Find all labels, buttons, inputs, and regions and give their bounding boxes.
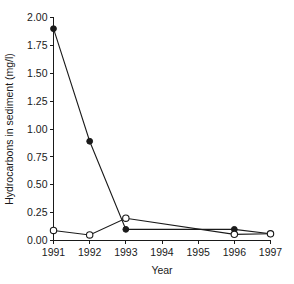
y-tick-label: 0.25 [27,206,48,218]
chart-container: 0.000.250.500.751.001.251.501.752.00 199… [0,0,294,284]
x-tick-label: 1997 [259,246,283,258]
data-series-group [50,26,273,238]
data-point-filled-circle-series-1992 [87,138,93,144]
data-point-filled-circle-series-1993 [123,226,129,232]
y-tick-label: 1.00 [27,123,48,135]
x-axis-ticks: 1991199219931994199519961997 [42,241,283,258]
y-axis-title: Hydrocarbons in sediment (mg/l) [3,53,15,205]
y-tick-label: 0.50 [27,178,48,190]
x-tick-label: 1994 [150,246,174,258]
x-tick-label: 1993 [114,246,138,258]
y-axis-ticks: 0.000.250.500.751.001.251.501.752.00 [27,11,53,246]
series-line-filled-circle-series [54,29,271,234]
data-point-open-circle-series-1993 [123,215,129,221]
y-tick-label: 0.75 [27,151,48,163]
y-tick-label: 1.50 [27,67,48,79]
x-tick-label: 1991 [42,246,66,258]
data-point-filled-circle-series-1991 [51,26,57,32]
data-point-open-circle-series-1997 [267,231,273,237]
data-point-open-circle-series-1992 [86,232,92,238]
x-tick-label: 1995 [186,246,210,258]
line-chart: 0.000.250.500.751.001.251.501.752.00 199… [0,0,294,284]
series-line-open-circle-series [54,218,271,235]
y-tick-label: 0.00 [27,234,48,246]
x-tick-label: 1996 [223,246,247,258]
y-tick-label: 1.25 [27,95,48,107]
data-point-open-circle-series-1996 [231,231,237,237]
y-tick-label: 1.75 [27,39,48,51]
y-tick-label: 2.00 [27,11,48,23]
x-axis-title: Year [151,264,173,276]
data-point-open-circle-series-1991 [50,227,56,233]
x-tick-label: 1992 [78,246,102,258]
